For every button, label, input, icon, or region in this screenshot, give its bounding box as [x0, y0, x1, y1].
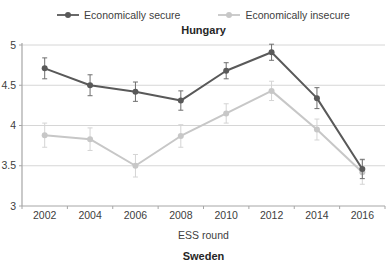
x-tick-labels: 20022004200620082010201220142016 — [33, 209, 374, 221]
legend-label-economically-secure: Economically secure — [84, 9, 180, 21]
x-tick-label: 2016 — [351, 209, 375, 221]
y-tick-label: 4.5 — [1, 79, 16, 91]
x-tick-label: 2004 — [78, 209, 102, 221]
data-point — [269, 88, 275, 94]
data-point — [87, 136, 93, 142]
x-tick-label: 2002 — [33, 209, 57, 221]
data-point — [314, 95, 320, 101]
data-point — [132, 163, 138, 169]
y-tick-label: 3 — [10, 200, 16, 212]
series-economically-secure — [42, 44, 366, 178]
data-point — [42, 132, 48, 138]
plot-area: 33.544.552002200420062008201020122014201… — [0, 36, 388, 228]
x-tick-label: 2006 — [124, 209, 148, 221]
chart-figure: Economically secure Economically insecur… — [0, 0, 388, 263]
legend: Economically secure Economically insecur… — [22, 7, 385, 23]
next-panel-title: Sweden — [22, 250, 385, 262]
legend-label-economically-insecure: Economically insecure — [245, 9, 349, 21]
data-point — [87, 82, 93, 88]
data-point — [223, 68, 229, 74]
data-point — [314, 127, 320, 133]
line-marker-light-icon — [218, 11, 240, 19]
y-tick-label: 3.5 — [1, 159, 16, 171]
x-tick-label: 2010 — [215, 209, 239, 221]
data-point — [132, 89, 138, 95]
legend-item-economically-secure: Economically secure — [57, 9, 180, 21]
data-point — [269, 49, 275, 55]
data-point — [223, 110, 229, 116]
chart-title: Hungary — [22, 24, 385, 36]
y-tick-label: 5 — [10, 39, 16, 51]
line-marker-dark-icon — [57, 11, 79, 19]
data-point — [42, 65, 48, 71]
legend-item-economically-insecure: Economically insecure — [218, 9, 349, 21]
x-tick-label: 2008 — [169, 209, 193, 221]
gridlines: 33.544.55 — [1, 39, 385, 212]
x-tick-label: 2012 — [260, 209, 284, 221]
x-axis-label: ESS round — [22, 229, 385, 241]
y-tick-label: 4 — [10, 119, 16, 131]
data-point — [359, 166, 365, 172]
data-point — [178, 133, 184, 139]
x-tick-label: 2014 — [305, 209, 329, 221]
data-point — [178, 98, 184, 104]
